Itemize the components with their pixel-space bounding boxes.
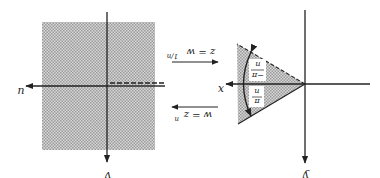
y-axis-label: y xyxy=(302,169,310,178)
x-axis-label: x xyxy=(217,83,224,96)
svg-text:n: n xyxy=(255,60,260,69)
angle-label-lower: π n xyxy=(249,86,264,107)
z-plane-panel: −π n π n x y xyxy=(217,10,370,178)
svg-text:n: n xyxy=(254,87,259,96)
forward-map-label-base: z = w xyxy=(186,47,216,58)
u-axis-label: u xyxy=(17,85,24,98)
v-axis-label: v xyxy=(104,169,111,178)
conformal-map-diagram: u v z = w 1/n w = z n −π n xyxy=(0,0,380,178)
mapping-arrows: z = w 1/n w = z n xyxy=(166,47,218,123)
inverse-map-label-exp: n xyxy=(174,115,179,123)
w-plane-panel: u v xyxy=(17,12,165,178)
forward-map-label-exp: 1/n xyxy=(166,52,178,60)
angle-label-upper: −π n xyxy=(249,59,266,81)
svg-text:π: π xyxy=(254,97,261,106)
inverse-map-label-base: w = z xyxy=(183,110,212,121)
svg-text:−π: −π xyxy=(251,71,264,80)
